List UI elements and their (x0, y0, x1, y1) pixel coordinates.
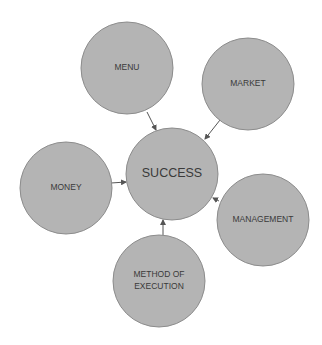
node-success: SUCCESS (126, 128, 218, 220)
arrow-market-to-success (205, 120, 220, 139)
node-market: MARKET (202, 38, 294, 130)
node-label-success: SUCCESS (142, 166, 202, 180)
node-money: MONEY (20, 142, 112, 234)
arrow-money-to-success (111, 182, 126, 183)
arrow-management-to-success (213, 198, 219, 201)
success-factors-diagram: MENUMARKETMONEYMANAGEMENTMETHOD OFEXECUT… (0, 0, 322, 345)
node-menu: MENU (81, 22, 173, 114)
node-label-menu: MENU (114, 62, 139, 72)
node-label-method-of-execution: EXECUTION (134, 281, 184, 291)
arrow-menu-to-success (147, 112, 156, 130)
node-label-market: MARKET (230, 78, 265, 88)
node-label-money: MONEY (50, 182, 82, 192)
node-label-management: MANAGEMENT (233, 214, 294, 224)
node-management: MANAGEMENT (217, 174, 309, 266)
node-label-method-of-execution: METHOD OF (134, 269, 185, 279)
node-method-of-execution: METHOD OFEXECUTION (113, 235, 205, 327)
center-node: SUCCESS (126, 128, 218, 220)
